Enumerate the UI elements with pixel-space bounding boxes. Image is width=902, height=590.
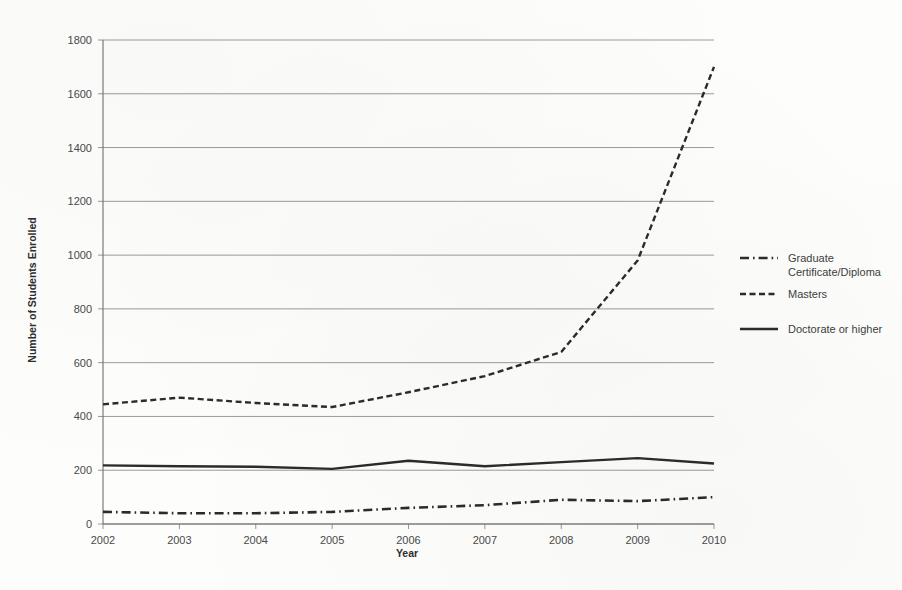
chart-legend: GraduateCertificate/DiplomaMastersDoctor… xyxy=(740,252,882,335)
series-line-1 xyxy=(103,67,714,407)
y-tick-label: 200 xyxy=(74,464,92,476)
line-chart: 020040060080010001200140016001800 200220… xyxy=(0,0,902,590)
y-tick-label: 1000 xyxy=(68,249,92,261)
y-tick-label: 1400 xyxy=(68,142,92,154)
y-tick-label: 800 xyxy=(74,303,92,315)
data-series-group xyxy=(103,67,714,513)
legend-label-0-line2: Certificate/Diploma xyxy=(788,266,882,278)
y-tick-label: 400 xyxy=(74,410,92,422)
legend-label-1: Masters xyxy=(788,288,828,300)
x-tick-label: 2007 xyxy=(473,534,497,546)
series-line-2 xyxy=(103,458,714,469)
y-tick-label: 1200 xyxy=(68,195,92,207)
y-tick-label: 1600 xyxy=(68,88,92,100)
x-tick-label: 2009 xyxy=(625,534,649,546)
x-tick-label: 2005 xyxy=(320,534,344,546)
y-tick-label: 1800 xyxy=(68,34,92,46)
gridlines xyxy=(103,40,714,524)
x-tick-label: 2002 xyxy=(91,534,115,546)
legend-label-2: Doctorate or higher xyxy=(788,323,882,335)
x-tick-label: 2010 xyxy=(702,534,726,546)
x-axis-title: Year xyxy=(396,547,418,559)
legend-label-0: Graduate xyxy=(788,252,834,264)
x-tick-label: 2008 xyxy=(549,534,573,546)
y-axis-title: Number of Students Enrolled xyxy=(26,217,38,362)
x-tick-label: 2004 xyxy=(244,534,268,546)
y-tick-label: 600 xyxy=(74,357,92,369)
y-tick-label: 0 xyxy=(86,518,92,530)
axis-tickmarks xyxy=(98,40,714,529)
series-line-0 xyxy=(103,497,714,513)
chart-figure: 020040060080010001200140016001800 200220… xyxy=(0,0,902,590)
x-axis-tick-labels: 200220032004200520062007200820092010 xyxy=(91,534,726,546)
x-tick-label: 2006 xyxy=(396,534,420,546)
y-axis-tick-labels: 020040060080010001200140016001800 xyxy=(68,34,92,530)
axis-lines xyxy=(103,40,714,524)
x-tick-label: 2003 xyxy=(167,534,191,546)
